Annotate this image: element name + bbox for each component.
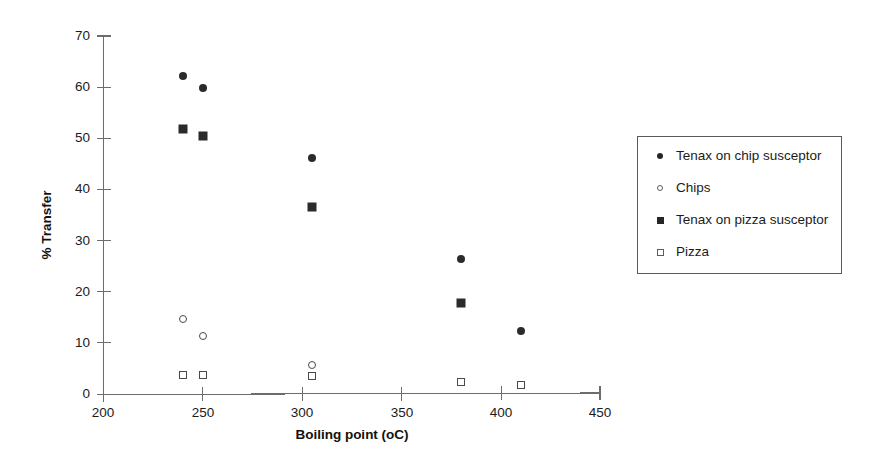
open-circle-icon xyxy=(652,185,668,191)
legend-item-pizza[interactable]: Pizza xyxy=(652,244,709,260)
legend-item-label: Tenax on chip susceptor xyxy=(676,149,822,163)
data-point xyxy=(308,154,316,162)
data-point xyxy=(517,381,525,389)
x-tick-label: 450 xyxy=(589,406,612,420)
legend-item-chips[interactable]: Chips xyxy=(652,180,711,196)
legend-item-tenax-on-pizza-susceptor[interactable]: Tenax on pizza susceptor xyxy=(652,212,828,228)
data-point xyxy=(456,298,465,307)
scatter-chart: 70 60 50 40 30 20 10 0 200 250 300 350 4… xyxy=(0,0,888,460)
data-point xyxy=(179,72,187,80)
data-point xyxy=(457,255,465,263)
legend-item-tenax-on-chip-susceptor[interactable]: Tenax on chip susceptor xyxy=(652,148,822,164)
data-point xyxy=(178,125,187,134)
legend: Tenax on chip susceptor Chips Tenax on p… xyxy=(637,136,842,274)
legend-item-label: Pizza xyxy=(676,245,709,259)
filled-square-icon xyxy=(652,217,668,224)
x-axis-line xyxy=(104,393,601,395)
x-tick-label: 250 xyxy=(192,406,215,420)
data-point xyxy=(457,378,465,386)
data-point xyxy=(308,361,316,369)
y-tick-label: 50 xyxy=(75,131,90,145)
x-tick-label: 200 xyxy=(92,406,115,420)
data-point xyxy=(198,132,207,141)
legend-item-label: Chips xyxy=(676,181,711,195)
x-tick-label: 300 xyxy=(291,406,314,420)
y-axis-title: % Transfer xyxy=(40,190,54,259)
y-tick-label: 70 xyxy=(75,29,90,43)
data-point xyxy=(517,327,525,335)
x-tick-label: 400 xyxy=(490,406,513,420)
data-point xyxy=(308,372,316,380)
filled-circle-icon xyxy=(652,153,668,159)
data-point xyxy=(179,315,187,323)
y-tick-label: 40 xyxy=(75,182,90,196)
data-point xyxy=(308,203,317,212)
data-point xyxy=(199,84,207,92)
y-tick-label: 10 xyxy=(75,336,90,350)
x-axis-title: Boiling point (oC) xyxy=(295,428,408,442)
data-point xyxy=(179,371,187,379)
y-tick-label: 30 xyxy=(75,234,90,248)
legend-item-label: Tenax on pizza susceptor xyxy=(676,213,828,227)
data-point xyxy=(199,371,207,379)
y-tick-label: 0 xyxy=(82,387,90,401)
data-point xyxy=(199,332,207,340)
y-tick-label: 20 xyxy=(75,285,90,299)
y-tick-label: 60 xyxy=(75,80,90,94)
open-square-icon xyxy=(652,249,668,256)
x-tick-label: 350 xyxy=(391,406,414,420)
